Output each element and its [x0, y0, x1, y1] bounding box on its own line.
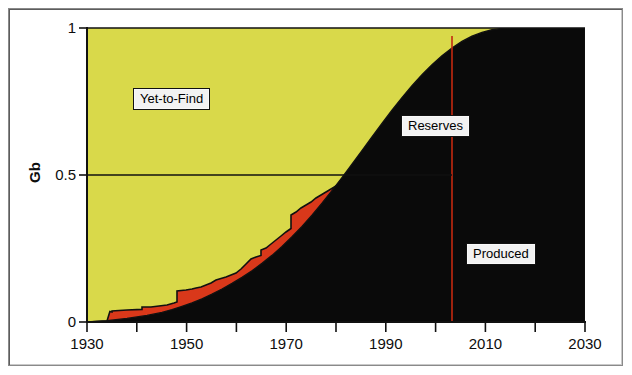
label-yet-to-find: Yet-to-Find	[133, 88, 210, 110]
x-tick-label-1930: 1930	[57, 335, 117, 352]
x-tick-label-1990: 1990	[356, 335, 416, 352]
y-tick-label-0point5: 0.5	[32, 166, 76, 183]
x-tick-label-1970: 1970	[256, 335, 316, 352]
label-produced: Produced	[466, 243, 536, 265]
plot-wrapper: Gb 1 0.5 0 1930 1950 1970 1990 2010 2030…	[0, 0, 632, 375]
x-tick-label-2030: 2030	[555, 335, 615, 352]
x-tick-label-2010: 2010	[455, 335, 515, 352]
label-reserves: Reserves	[401, 115, 470, 137]
figure-container: Gb 1 0.5 0 1930 1950 1970 1990 2010 2030…	[0, 0, 632, 375]
area-chart-svg	[0, 0, 632, 375]
y-tick-label-1: 1	[32, 19, 76, 36]
x-tick-label-1950: 1950	[157, 335, 217, 352]
y-tick-label-0: 0	[32, 313, 76, 330]
